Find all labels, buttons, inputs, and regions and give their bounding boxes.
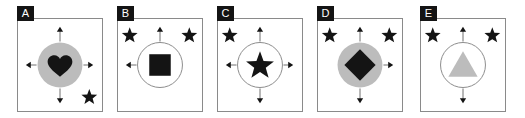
panel-stage bbox=[118, 19, 202, 111]
panel-c: C bbox=[217, 18, 303, 112]
panel-stage bbox=[421, 19, 505, 111]
panel-e: E bbox=[420, 18, 506, 112]
star-icon bbox=[322, 27, 338, 42]
panel-figure: ABCDE bbox=[0, 0, 525, 118]
star-icon bbox=[122, 27, 138, 42]
panel-stage bbox=[318, 19, 402, 111]
star-icon bbox=[484, 27, 500, 42]
panel-stage bbox=[218, 19, 302, 111]
star-icon bbox=[381, 27, 397, 42]
star-icon bbox=[81, 89, 97, 104]
panel-d: D bbox=[317, 18, 403, 112]
square-icon bbox=[149, 54, 170, 76]
panel-a: A bbox=[17, 18, 103, 112]
star-icon bbox=[222, 27, 238, 42]
panel-b: B bbox=[117, 18, 203, 112]
star-icon bbox=[181, 27, 197, 42]
panel-stage bbox=[18, 19, 102, 111]
star-icon bbox=[425, 27, 441, 42]
